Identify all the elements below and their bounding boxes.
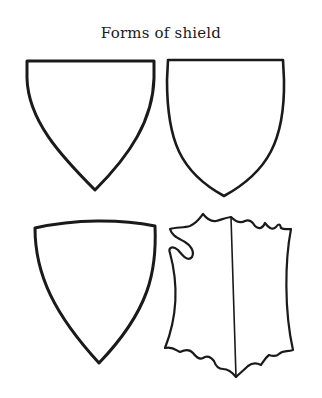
shield-pointed [27,61,154,190]
shield-rounded-point [167,60,284,196]
shields-diagram [0,0,322,398]
shield-tournament-notched [165,214,293,377]
shield-center-line [231,217,236,377]
shield-arched-top [35,221,155,363]
